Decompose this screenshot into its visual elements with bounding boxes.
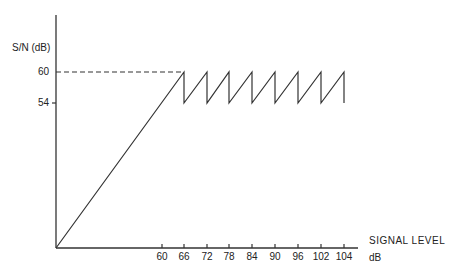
x-tick-label: 72 — [201, 251, 212, 262]
y-axis-label: S/N (dB) — [12, 43, 50, 53]
y-tick-label-54: 54 — [38, 98, 49, 108]
x-axis-label: SIGNAL LEVEL — [369, 236, 445, 246]
sn-series-line — [56, 72, 344, 248]
x-axis-unit: dB — [369, 253, 381, 263]
x-tick-label: 90 — [269, 251, 280, 262]
chart-plot — [0, 0, 460, 274]
x-tick-label: 78 — [223, 251, 234, 262]
x-tick-label: 60 — [156, 251, 167, 262]
y-tick-label-60: 60 — [38, 67, 49, 77]
x-tick-label: 96 — [292, 251, 303, 262]
x-tick-label: 66 — [178, 251, 189, 262]
x-tick-label: 104 — [336, 251, 353, 262]
x-tick-label: 102 — [313, 251, 330, 262]
x-tick-label: 84 — [246, 251, 257, 262]
